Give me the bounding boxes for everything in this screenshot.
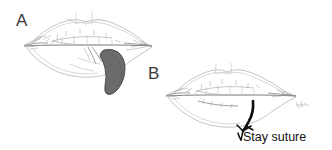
panel-b-label: B bbox=[148, 64, 159, 83]
stay-suture-annotation-label: Stay suture bbox=[243, 130, 306, 144]
figure-background bbox=[0, 0, 332, 150]
panel-a-label: A bbox=[16, 11, 28, 30]
surgical-illustration-svg: A bbox=[0, 0, 332, 150]
figure-container: A bbox=[0, 0, 332, 150]
